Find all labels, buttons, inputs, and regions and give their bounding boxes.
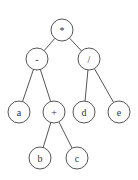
node-minus: - xyxy=(26,48,48,70)
edge-div-e xyxy=(94,69,113,103)
edge-root-minus xyxy=(44,38,55,50)
node-divide: / xyxy=(78,48,100,70)
node-label: e xyxy=(117,107,122,118)
node-label: d xyxy=(82,107,87,118)
edge-div-d xyxy=(85,70,88,101)
edge-plus-b xyxy=(43,123,51,148)
node-label: * xyxy=(60,25,65,36)
node-c: c xyxy=(66,147,88,169)
node-plus: + xyxy=(43,101,65,123)
node-label: c xyxy=(75,153,80,164)
expression-tree-diagram: * - / a + d e xyxy=(0,0,138,180)
node-d: d xyxy=(73,101,95,123)
edge-root-div xyxy=(69,38,81,51)
node-label: - xyxy=(35,54,38,65)
edge-plus-c xyxy=(59,122,72,148)
node-a: a xyxy=(8,101,30,123)
node-e: e xyxy=(108,101,130,123)
node-label: a xyxy=(17,107,22,118)
edge-minus-plus xyxy=(40,69,50,101)
node-b: b xyxy=(29,147,51,169)
edge-minus-a xyxy=(23,69,34,101)
node-label: / xyxy=(88,54,91,65)
node-root: * xyxy=(51,19,73,41)
node-label: b xyxy=(38,153,43,164)
tree-svg: * - / a + d e xyxy=(0,0,138,180)
node-label: + xyxy=(51,107,57,118)
nodes-layer: * - / a + d e xyxy=(8,19,130,169)
